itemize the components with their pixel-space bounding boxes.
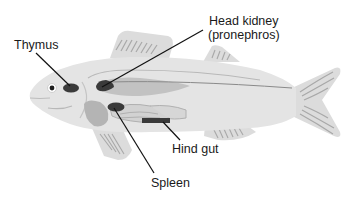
second-dorsal-fin [203, 45, 240, 62]
spleen-label: Spleen [151, 176, 190, 190]
thymus-label: Thymus [14, 38, 58, 52]
thymus-organ [63, 84, 79, 93]
mouth-line [30, 98, 50, 99]
head-kidney-label-line1: Head kidney [208, 14, 280, 28]
head-kidney-label-line2: (pronephros) [208, 28, 280, 42]
hind-gut-organ [142, 118, 170, 123]
fish-anatomy-diagram: Thymus Head kidney (pronephros) Hind gut… [0, 0, 355, 202]
hind-gut-label: Hind gut [172, 142, 219, 156]
fish-illustration [0, 0, 355, 202]
eye-pupil [50, 86, 55, 91]
head-kidney-label: Head kidney (pronephros) [208, 14, 280, 42]
pelvic-fin [92, 128, 132, 160]
